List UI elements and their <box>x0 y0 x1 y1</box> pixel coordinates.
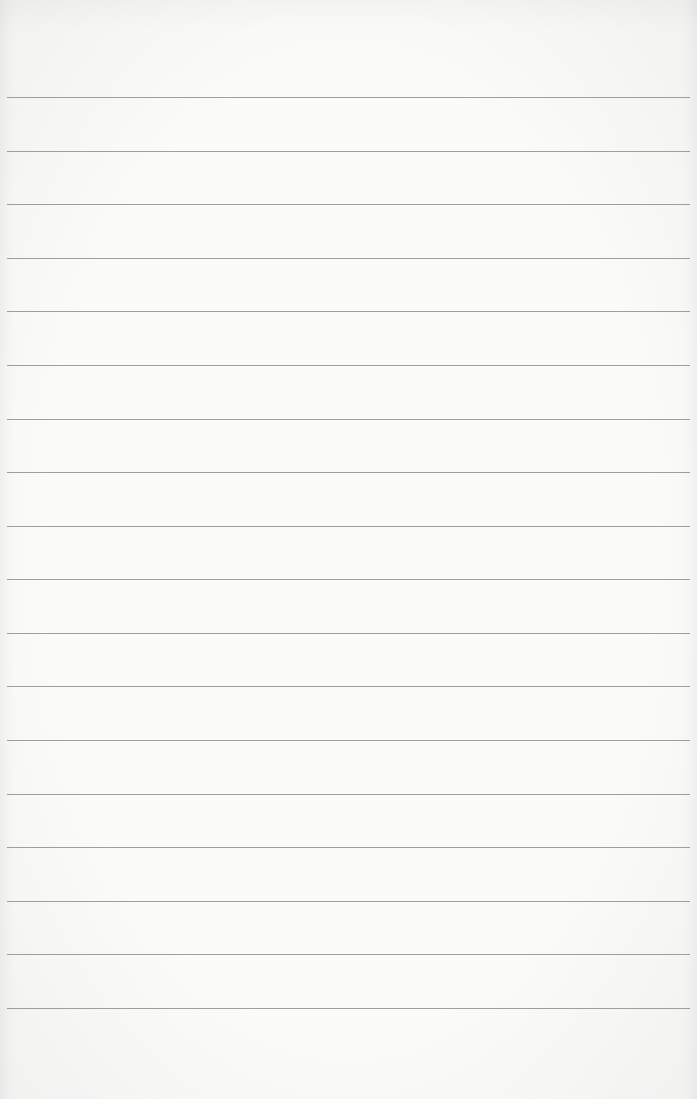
ruled-line <box>7 472 690 473</box>
ruled-line <box>7 151 690 152</box>
ruled-line <box>7 794 690 795</box>
ruled-line <box>7 633 690 634</box>
ruled-line <box>7 579 690 580</box>
ruled-line <box>7 419 690 420</box>
ruled-line <box>7 311 690 312</box>
ruled-line <box>7 686 690 687</box>
ruled-line <box>7 97 690 98</box>
ruled-line <box>7 954 690 955</box>
ruled-line <box>7 740 690 741</box>
ruled-line <box>7 526 690 527</box>
ruled-line <box>7 901 690 902</box>
ruled-line <box>7 258 690 259</box>
lined-paper-sheet <box>0 0 697 1099</box>
ruled-line <box>7 847 690 848</box>
ruled-line <box>7 204 690 205</box>
ruled-line <box>7 365 690 366</box>
ruled-line <box>7 1008 690 1009</box>
